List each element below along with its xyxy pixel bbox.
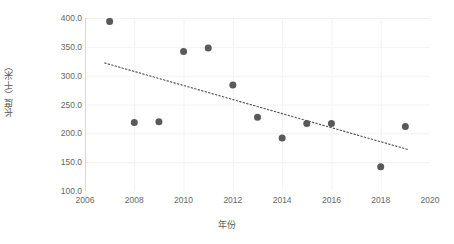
scatter-chart: 长度（千米） 100.0150.0200.0250.0300.0350.0400… <box>0 0 454 244</box>
x-tick-label: 2020 <box>421 195 440 205</box>
data-point-marker <box>131 119 138 126</box>
plot-area <box>85 18 430 191</box>
x-tick-label: 2016 <box>322 195 341 205</box>
data-point-marker <box>229 81 236 88</box>
data-point-marker <box>328 120 335 127</box>
plot-svg <box>85 18 430 191</box>
data-point-marker <box>205 44 212 51</box>
data-point-marker <box>155 118 162 125</box>
data-point-marker <box>254 114 261 121</box>
data-points <box>106 18 409 170</box>
data-point-marker <box>377 163 384 170</box>
x-tick-label: 2014 <box>273 195 292 205</box>
data-point-marker <box>402 123 409 130</box>
x-tick-label: 2006 <box>76 195 95 205</box>
x-tick-label: 2012 <box>223 195 242 205</box>
data-point-marker <box>106 18 113 25</box>
data-point-marker <box>279 134 286 141</box>
data-point-marker <box>303 120 310 127</box>
data-point-marker <box>180 48 187 55</box>
x-tick-label: 2018 <box>371 195 390 205</box>
x-axis-title: 年份 <box>0 218 454 231</box>
x-tick-label: 2008 <box>125 195 144 205</box>
x-tick-label: 2010 <box>174 195 193 205</box>
